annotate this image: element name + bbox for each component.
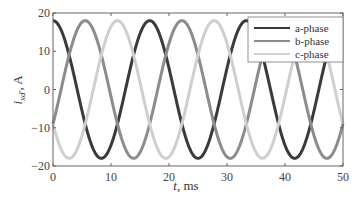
y-tick-label: 20	[38, 6, 50, 20]
chart: 01020304050−20−1001020 a-phase b-phase c…	[0, 0, 357, 201]
y-axis-label: ixd', A	[10, 75, 27, 105]
svg-text:ixd', A: ixd', A	[10, 75, 27, 105]
legend: a-phase b-phase c-phase	[248, 17, 343, 62]
legend-label-a: a-phase	[295, 22, 329, 34]
y-tick-label: −20	[31, 159, 50, 173]
legend-label-c: c-phase	[295, 48, 329, 60]
x-tick-label: 50	[337, 170, 349, 184]
y-tick-label: 0	[44, 83, 50, 97]
y-tick-label: 10	[38, 44, 50, 58]
y-tick-label: −10	[31, 121, 50, 135]
x-axis-label: t, ms	[173, 178, 198, 193]
legend-label-b: b-phase	[295, 35, 329, 47]
x-tick-label: 0	[50, 170, 56, 184]
x-tick-label: 40	[279, 170, 291, 184]
x-tick-label: 30	[221, 170, 233, 184]
x-tick-label: 10	[105, 170, 117, 184]
